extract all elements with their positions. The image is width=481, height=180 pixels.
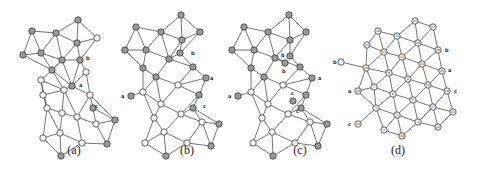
graph-edge: [82, 143, 107, 144]
graph-node: [338, 59, 344, 65]
graph-node: [285, 111, 291, 117]
graph-node: [287, 53, 293, 59]
graph-node: [93, 121, 99, 127]
node-label: 11: [400, 55, 404, 59]
graph-edge: [253, 143, 273, 156]
graph-edge: [264, 77, 268, 104]
node-label: 28: [356, 122, 360, 126]
graph-node: [287, 37, 293, 43]
graph-node: [196, 92, 202, 98]
graph-node: [178, 111, 184, 117]
graph-node: [59, 110, 65, 116]
graph-node: [40, 92, 46, 98]
graph-edge: [202, 122, 211, 146]
graph-node: [248, 89, 254, 95]
graph-node: [235, 93, 241, 99]
node-marker-label: b: [282, 68, 286, 74]
graph-edge: [289, 15, 306, 32]
graph-edge: [136, 27, 161, 32]
node-marker-label: a: [121, 93, 124, 99]
graph-edge: [145, 143, 166, 156]
node-marker-label: b: [445, 47, 449, 53]
graph-edge: [23, 55, 52, 70]
node-marker-label: c: [296, 108, 299, 114]
node-marker-label: c: [291, 90, 294, 96]
node-marker-label: a: [318, 75, 321, 81]
graph-edge: [23, 31, 32, 55]
graph-node: [270, 153, 276, 159]
graph-edge: [146, 50, 169, 59]
node-label: 15: [395, 34, 399, 38]
node-label: 1: [383, 128, 385, 132]
graph-node: [57, 130, 63, 136]
graph-edge: [301, 108, 327, 124]
graph-edge: [161, 15, 181, 32]
graph-node: [161, 129, 167, 135]
node-label: 4: [417, 120, 419, 124]
graph-node: [251, 47, 257, 53]
graph-node: [44, 105, 50, 111]
graph-edge: [295, 122, 310, 143]
graph-edge: [273, 143, 295, 156]
graph-node: [49, 67, 55, 73]
graph-node: [38, 77, 44, 83]
node-label: 7: [373, 85, 375, 89]
node-marker-label: c: [95, 103, 98, 109]
graph-edge: [125, 27, 136, 50]
graph-node: [199, 119, 205, 125]
graph-node: [140, 65, 146, 71]
graph-node: [158, 29, 164, 35]
graph-edge: [187, 122, 202, 143]
caption-b: (b): [180, 143, 194, 158]
node-marker-label: c: [348, 121, 351, 127]
graph-node: [29, 28, 35, 34]
graph-node: [53, 30, 59, 36]
graph-edge: [283, 78, 312, 85]
graph-node: [315, 143, 321, 149]
graph-node: [74, 114, 80, 120]
node-marker-label: c: [454, 88, 457, 94]
graph-node: [229, 47, 235, 53]
node-label: 9: [388, 71, 390, 75]
graph-node: [248, 65, 254, 71]
node-label: 20: [416, 41, 420, 45]
graph-node: [38, 50, 44, 56]
graph-node: [250, 140, 256, 146]
graph-node: [151, 115, 157, 121]
node-label: 13: [382, 50, 386, 54]
graph-node: [143, 47, 149, 53]
graph-node: [241, 24, 247, 30]
graph-edge: [232, 27, 244, 50]
node-label: 18: [376, 29, 380, 33]
node-marker-label: b: [281, 52, 285, 58]
graph-node: [178, 12, 184, 18]
node-label: 25: [440, 69, 444, 73]
graph-edge: [41, 33, 56, 53]
graph-edge: [56, 33, 62, 60]
graph-edge: [358, 91, 376, 108]
graph-edge: [77, 117, 82, 143]
graph-edge: [366, 52, 384, 68]
node-label: 22: [436, 125, 440, 129]
graph-node: [309, 75, 315, 81]
graph-edge: [310, 122, 318, 146]
graph-edge: [358, 108, 376, 124]
graph-node: [324, 121, 330, 127]
graph-node: [208, 143, 214, 149]
graph-node: [216, 121, 222, 127]
graph-node: [104, 141, 110, 147]
graph-edge: [290, 32, 306, 56]
graph-edge: [268, 15, 289, 32]
node-label: 29: [356, 89, 360, 93]
graph-node: [20, 52, 26, 58]
graph-node: [179, 37, 185, 43]
graph-edge: [318, 124, 327, 146]
graph-edge: [272, 114, 288, 132]
graph-node: [261, 74, 267, 80]
graph-node: [282, 60, 288, 66]
graph-node: [269, 129, 275, 135]
node-label: 6: [392, 92, 394, 96]
node-marker-label: a: [210, 75, 213, 81]
node-label: 10: [364, 66, 368, 70]
graph-edge: [289, 15, 290, 40]
